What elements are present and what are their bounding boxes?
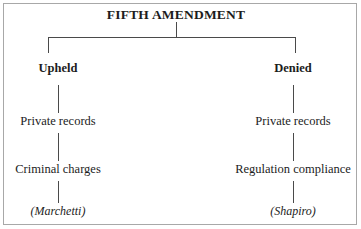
- connector-root-stem: [176, 22, 177, 37]
- connector-upheld-step1-to-step2: [58, 133, 59, 161]
- connector-denied-step2-to-case: [293, 181, 294, 203]
- connector-upheld-to-step1: [58, 85, 59, 113]
- branch-label-upheld: Upheld: [39, 62, 78, 75]
- connector-leg-right: [295, 37, 296, 53]
- diagram-title: FIFTH AMENDMENT: [107, 8, 245, 22]
- branch-label-denied: Denied: [274, 62, 312, 75]
- case-citation-shapiro: (Shapiro): [270, 205, 316, 217]
- fifth-amendment-tree-diagram: FIFTH AMENDMENT Upheld Private records C…: [0, 0, 361, 229]
- connector-leg-left: [48, 37, 49, 53]
- connector-denied-to-step1: [293, 85, 294, 113]
- connector-split-bar: [48, 37, 296, 38]
- connector-upheld-step2-to-case: [58, 181, 59, 203]
- step-upheld-private-records: Private records: [20, 115, 95, 128]
- case-citation-marchetti: (Marchetti): [31, 205, 86, 217]
- connector-denied-step1-to-step2: [293, 133, 294, 161]
- step-upheld-criminal-charges: Criminal charges: [15, 163, 101, 176]
- step-denied-private-records: Private records: [255, 115, 330, 128]
- step-denied-regulation-compliance: Regulation compliance: [235, 163, 351, 176]
